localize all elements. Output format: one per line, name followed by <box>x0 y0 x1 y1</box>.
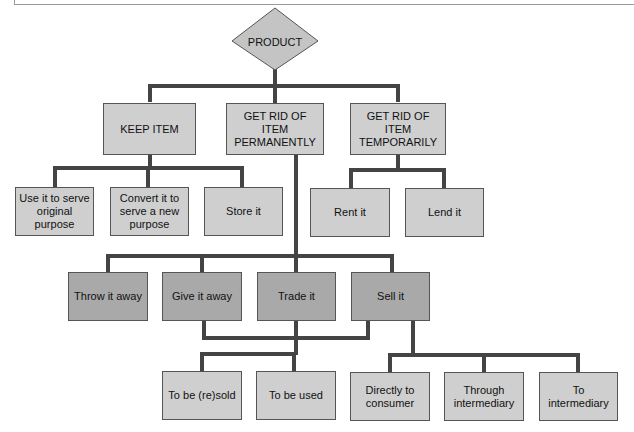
node-keep-item: KEEP ITEM <box>103 103 196 155</box>
node-to-be-resold: To be (re)sold <box>162 371 242 420</box>
node-through-intermediary: Through intermediary <box>444 372 524 421</box>
node-to-be-used: To be used <box>256 371 336 420</box>
node-sell-it: Sell it <box>351 272 430 321</box>
node-rent-it: Rent it <box>310 188 390 237</box>
node-directly-to-consumer: Directly to consumer <box>350 372 430 421</box>
root-node-label: PRODUCT <box>230 30 320 54</box>
product-disposition-diagram: PRODUCT KEEP ITEM GET RID OF ITEM PERMAN… <box>0 0 634 432</box>
node-get-rid-temporarily: GET RID OF ITEM TEMPORARILY <box>350 103 446 155</box>
node-store-it: Store it <box>204 187 283 236</box>
node-convert-new-purpose: Convert it to serve a new purpose <box>110 187 189 236</box>
node-get-rid-permanently: GET RID OF ITEM PERMANENTLY <box>226 103 324 155</box>
node-throw-away: Throw it away <box>68 272 148 321</box>
node-use-original-purpose: Use it to serve original purpose <box>15 187 94 236</box>
node-lend-it: Lend it <box>405 188 484 237</box>
node-to-intermediary: To intermediary <box>539 372 618 421</box>
node-give-away: Give it away <box>162 272 242 321</box>
node-trade-it: Trade it <box>257 272 336 321</box>
